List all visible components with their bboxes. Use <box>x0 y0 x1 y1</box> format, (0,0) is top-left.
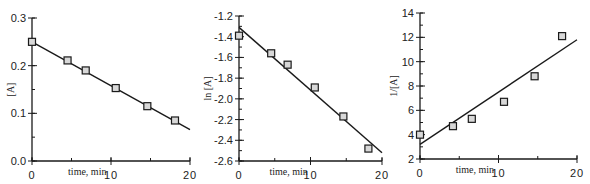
fit-line <box>420 40 577 145</box>
data-point-marker <box>29 38 36 45</box>
x-tick-label: 0 <box>28 169 35 181</box>
data-point-marker <box>311 84 318 91</box>
x-tick-label: 20 <box>183 169 197 181</box>
data-point-marker <box>236 32 243 39</box>
y-tick-label: 4 <box>408 129 414 141</box>
data-point-marker <box>171 117 178 124</box>
data-point-marker <box>268 50 275 57</box>
x-axis-label: time, min <box>68 166 106 177</box>
y-axis-label: 1/[A] <box>388 75 399 97</box>
y-tick-label: 8 <box>408 80 414 92</box>
y-tick-label: -2.6 <box>214 155 233 167</box>
x-axis-label: time, min <box>269 166 307 177</box>
y-tick-label: 12 <box>402 31 414 43</box>
y-tick-label: -2.0 <box>214 93 233 105</box>
chart-panel-2: -2.6-2.4-2.2-2.0-1.8-1.6-1.4-1.201020tim… <box>202 10 389 181</box>
x-tick-label: 20 <box>570 167 584 179</box>
y-tick-label: -2.4 <box>214 134 233 146</box>
data-point-marker <box>365 145 372 152</box>
data-point-marker <box>284 61 291 68</box>
y-tick-label: 2 <box>408 153 414 165</box>
x-tick-label: 20 <box>375 169 389 181</box>
data-point-marker <box>559 33 566 40</box>
data-point-marker <box>417 131 424 138</box>
y-tick-label: 0.3 <box>11 12 26 24</box>
y-tick-label: -1.2 <box>214 10 233 22</box>
fit-line <box>32 42 190 130</box>
y-tick-label: -2.2 <box>214 114 233 126</box>
data-point-marker <box>82 67 89 74</box>
fit-line <box>239 27 382 152</box>
y-tick-label: -1.4 <box>214 31 233 43</box>
y-axis-label: ln [A] <box>202 76 213 100</box>
data-point-marker <box>468 115 475 122</box>
x-tick-label: 0 <box>416 167 423 179</box>
data-point-marker <box>112 85 119 92</box>
y-tick-label: 0.1 <box>11 107 26 119</box>
figure-three-kinetics-plots: 0.00.10.20.301020time, min[A]-2.6-2.4-2.… <box>0 0 590 184</box>
y-tick-label: 14 <box>402 7 414 19</box>
y-tick-label: -1.6 <box>214 51 233 63</box>
data-point-marker <box>64 57 71 64</box>
data-point-marker <box>500 98 507 105</box>
data-point-marker <box>340 113 347 120</box>
y-tick-label: 0.0 <box>11 155 26 167</box>
y-tick-label: -1.8 <box>214 72 233 84</box>
chart-panel-1: 0.00.10.20.301020time, min[A] <box>5 12 197 181</box>
y-tick-label: 10 <box>402 56 414 68</box>
x-axis-label: time, min <box>456 164 494 175</box>
data-point-marker <box>144 103 151 110</box>
data-point-marker <box>449 123 456 130</box>
chart-panel-3: 246810121401020time, min1/[A] <box>388 7 584 179</box>
y-axis-label: [A] <box>5 83 16 97</box>
data-point-marker <box>531 73 538 80</box>
y-tick-label: 0.2 <box>11 60 26 72</box>
y-tick-label: 6 <box>408 104 414 116</box>
x-tick-label: 0 <box>235 169 242 181</box>
